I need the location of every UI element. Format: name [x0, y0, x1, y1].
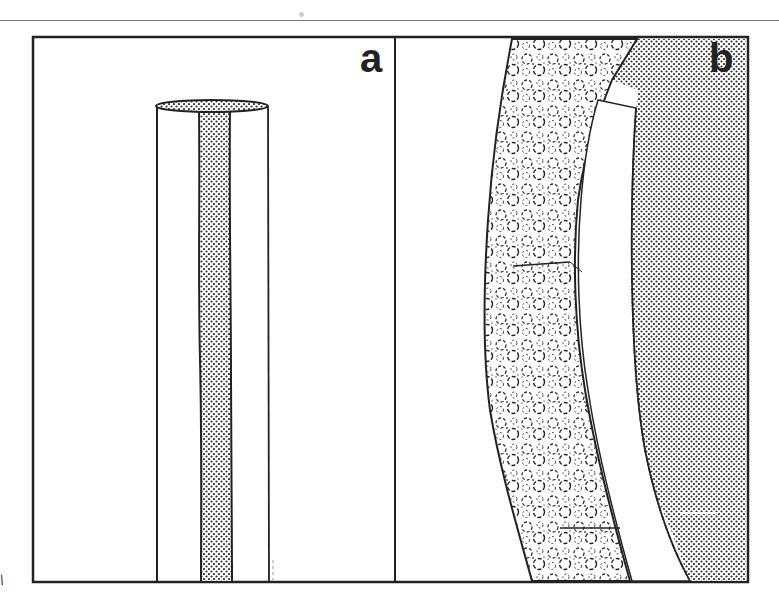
panel-label-b: b	[709, 38, 733, 78]
panel-label-a: a	[360, 38, 382, 78]
panel-a	[156, 100, 273, 582]
panel-b	[485, 39, 747, 581]
figure-illustration	[0, 0, 779, 612]
